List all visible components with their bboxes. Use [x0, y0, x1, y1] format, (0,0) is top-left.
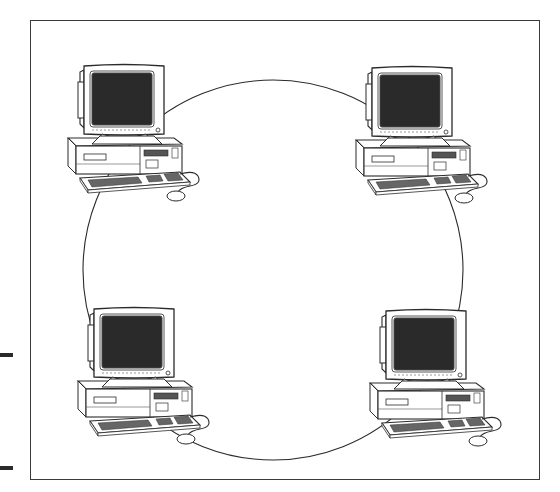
computer-top-left	[68, 65, 199, 202]
computer-bottom-right	[370, 310, 501, 447]
computer-bottom-left	[78, 308, 209, 445]
ring-topology-diagram: ring-network-topology	[0, 0, 560, 492]
computer-top-right	[356, 67, 487, 204]
diagram-canvas	[0, 0, 560, 492]
